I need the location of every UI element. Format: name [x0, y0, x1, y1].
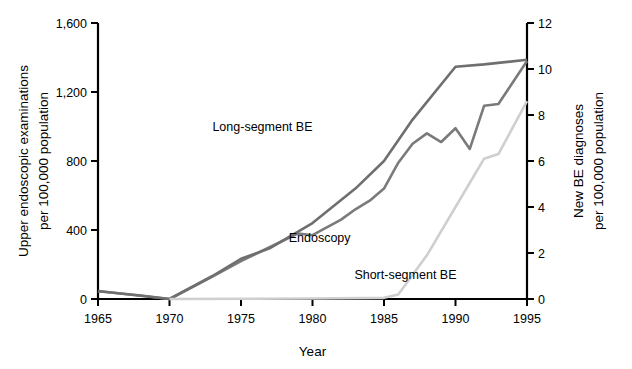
x-axis-title: Year — [299, 344, 327, 359]
y-axis-tick-label-right: 6 — [538, 155, 545, 169]
y-axis-title-left-line2: per 100,000 population — [36, 92, 51, 230]
y-axis-title-right-line2: per 100,000 population — [591, 92, 606, 230]
series-label-endoscopy: Endoscopy — [289, 231, 352, 245]
series-label-long-segment-be: Long-segment BE — [212, 120, 312, 134]
line-chart: 04008001,2001,60002468101219651970197519… — [0, 0, 632, 369]
series-label-short-segment-be: Short-segment BE — [354, 268, 456, 282]
x-axis-tick-label: 1995 — [513, 312, 541, 326]
x-axis-tick-label: 1980 — [299, 312, 327, 326]
y-axis-tick-label-right: 8 — [538, 109, 545, 123]
y-axis-tick-label-left: 400 — [66, 224, 87, 238]
x-axis-tick-label: 1965 — [84, 312, 112, 326]
y-axis-tick-label-right: 12 — [538, 17, 552, 31]
x-axis-tick-label: 1990 — [442, 312, 470, 326]
y-axis-tick-label-left: 1,200 — [56, 86, 87, 100]
y-axis-tick-label-right: 10 — [538, 63, 552, 77]
x-axis-tick-label: 1975 — [227, 312, 255, 326]
axis-frame — [98, 23, 527, 299]
y-axis-tick-label-right: 0 — [538, 293, 545, 307]
y-axis-title-left-line1: Upper endoscopic examinations — [16, 65, 31, 257]
y-axis-tick-label-right: 4 — [538, 201, 545, 215]
x-axis-tick-label: 1970 — [156, 312, 184, 326]
x-axis-tick-label: 1985 — [370, 312, 398, 326]
series-line-endoscopy — [98, 61, 527, 299]
series-line-long-segment-be — [98, 60, 527, 299]
y-axis-title-right-line1: New BE diagnoses — [571, 104, 586, 218]
y-axis-tick-label-left: 0 — [80, 293, 87, 307]
chart-figure: 04008001,2001,60002468101219651970197519… — [0, 0, 632, 369]
y-axis-tick-label-left: 1,600 — [56, 17, 87, 31]
y-axis-tick-label-right: 2 — [538, 247, 545, 261]
y-axis-tick-label-left: 800 — [66, 155, 87, 169]
